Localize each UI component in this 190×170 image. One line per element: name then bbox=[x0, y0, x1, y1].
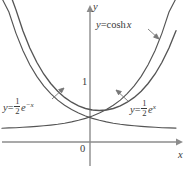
label-eneg-fraction: 12 bbox=[14, 97, 20, 116]
label-epos-denominator: 2 bbox=[141, 109, 147, 118]
label-eneg-exponent: −x bbox=[26, 101, 34, 109]
curve-cosh bbox=[12, 0, 176, 111]
label-eneg-denominator: 2 bbox=[14, 107, 20, 116]
label-epos-exponent: x bbox=[153, 103, 156, 111]
axes-group bbox=[2, 5, 183, 166]
label-half-e-neg-x: y=12e−x bbox=[3, 97, 34, 116]
x-axis-arrow-icon bbox=[176, 139, 183, 146]
label-cosh-argument: x bbox=[127, 19, 132, 30]
y-axis-label: y bbox=[93, 2, 98, 13]
x-axis-label: x bbox=[178, 150, 183, 161]
label-cosh: y=cosh x bbox=[96, 20, 131, 31]
label-half-e-pos-x: y=12ex bbox=[130, 99, 156, 118]
label-epos-fraction: 12 bbox=[141, 99, 147, 118]
y-tick-label-one: 1 bbox=[82, 77, 87, 88]
origin-label: 0 bbox=[80, 144, 85, 155]
label-epos-equals: = bbox=[135, 104, 141, 115]
label-cosh-function: cosh bbox=[107, 19, 126, 30]
cosh-graph-figure: y=cosh x y=12e−x y=12ex y x 1 0 bbox=[0, 0, 190, 170]
plot-canvas bbox=[0, 0, 190, 170]
label-eneg-equals: = bbox=[8, 102, 14, 113]
